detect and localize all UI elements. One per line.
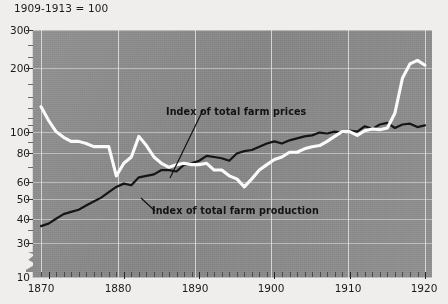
x-axis-label-1910: 1910 [335, 282, 362, 294]
x-tick-minor [372, 272, 373, 277]
x-tick-minor [410, 272, 411, 277]
x-tick-minor [116, 272, 117, 277]
x-tick-minor [312, 272, 313, 277]
annotation-farm-prices: Index of total farm prices [166, 106, 306, 117]
data-series-group [33, 30, 432, 278]
x-tick-minor [162, 272, 163, 277]
x-tick-minor [342, 272, 343, 277]
x-tick-minor [177, 272, 178, 277]
y-tick-300 [26, 30, 33, 31]
x-tick-minor [402, 272, 403, 277]
x-tick-minor [267, 272, 268, 277]
x-tick-major [49, 272, 50, 279]
x-tick-minor [418, 272, 419, 277]
x-tick-major [350, 272, 351, 279]
x-tick-minor [365, 272, 366, 277]
y-axis-label-10: 10 [2, 272, 30, 283]
chart-figure: 1909-1913 = 100 300 200 100 80 60 50 40 … [0, 0, 448, 304]
y-tick-30 [26, 243, 33, 244]
annotation-farm-production: Index of total farm production [152, 205, 319, 216]
x-tick-minor [214, 272, 215, 277]
x-axis-label-1920: 1920 [411, 282, 438, 294]
x-tick-minor [139, 272, 140, 277]
x-tick-minor [327, 272, 328, 277]
x-tick-minor [131, 272, 132, 277]
x-axis-label-1890: 1890 [182, 282, 209, 294]
x-tick-minor [109, 272, 110, 277]
y-tick-80 [26, 153, 33, 154]
x-tick-minor [320, 272, 321, 277]
x-tick-minor [94, 272, 95, 277]
x-tick-minor [169, 272, 170, 277]
x-axis-label-1870: 1870 [28, 282, 55, 294]
x-tick-minor [101, 272, 102, 277]
x-tick-minor [154, 272, 155, 277]
x-tick-minor [297, 272, 298, 277]
x-tick-minor [282, 272, 283, 277]
x-axis-label-1900: 1900 [258, 282, 285, 294]
x-tick-minor [387, 272, 388, 277]
x-tick-minor [395, 272, 396, 277]
plot-area [33, 30, 432, 278]
y-tick-40 [26, 219, 33, 220]
leader-line-prices [153, 108, 205, 182]
x-tick-minor [86, 272, 87, 277]
x-tick-minor [56, 272, 57, 277]
y-tick-200 [26, 68, 33, 69]
x-tick-minor [146, 272, 147, 277]
x-tick-major [124, 272, 125, 279]
x-tick-minor [259, 272, 260, 277]
x-tick-major [199, 272, 200, 279]
x-axis-ticks [33, 272, 432, 279]
x-tick-major [274, 272, 275, 279]
y-tick-100 [26, 132, 33, 133]
x-tick-minor [252, 272, 253, 277]
y-tick-50 [26, 199, 33, 200]
x-tick-minor [222, 272, 223, 277]
x-tick-minor [244, 272, 245, 277]
x-tick-minor [79, 272, 80, 277]
x-tick-minor [192, 272, 193, 277]
x-tick-minor [380, 272, 381, 277]
y-tick-60 [26, 182, 33, 183]
x-tick-minor [41, 272, 42, 277]
x-tick-minor [229, 272, 230, 277]
x-tick-minor [64, 272, 65, 277]
x-tick-minor [305, 272, 306, 277]
x-tick-minor [184, 272, 185, 277]
x-tick-minor [335, 272, 336, 277]
x-tick-minor [357, 272, 358, 277]
line-total-farm-prices [41, 60, 425, 187]
x-axis-label-1880: 1880 [105, 282, 132, 294]
x-tick-minor [207, 272, 208, 277]
x-tick-minor [237, 272, 238, 277]
x-tick-major [425, 272, 426, 279]
x-tick-minor [290, 272, 291, 277]
x-tick-minor [71, 272, 72, 277]
